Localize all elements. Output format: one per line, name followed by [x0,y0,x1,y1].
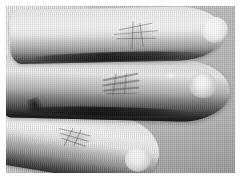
finger-middle-shading [6,55,231,123]
photograph-canvas [6,6,235,173]
finger-index [9,6,224,64]
finger-index-shading [9,6,224,64]
photograph-frame [0,0,241,179]
finger-middle [6,55,231,123]
